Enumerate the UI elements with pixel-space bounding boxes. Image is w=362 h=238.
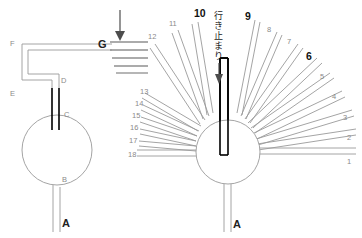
spoke-label-9: 9 — [245, 10, 251, 22]
diagram-canvas: A B C D E F G — [0, 0, 362, 238]
left-label-a: A — [62, 217, 70, 229]
spoke-label-1: 1 — [347, 157, 351, 166]
left-label-g: G — [98, 38, 107, 50]
spoke-label-2: 2 — [347, 133, 351, 142]
left-stem-a — [53, 185, 60, 232]
spoke-label-15: 15 — [132, 111, 140, 120]
left-panel-group: A B C D E F G — [10, 10, 148, 232]
spoke-label-12: 12 — [148, 32, 156, 41]
left-label-e: E — [10, 89, 15, 98]
left-label-f: F — [10, 39, 15, 48]
spoke-label-8: 8 — [267, 25, 271, 34]
technical-diagram-figure: A B C D E F G — [0, 0, 362, 238]
spoke-label-14: 14 — [135, 99, 143, 108]
spoke-label-13: 13 — [140, 87, 148, 96]
dead-end-annotation-group: 行 き 止 ま り — [214, 10, 223, 84]
spoke-label-3: 3 — [343, 113, 347, 122]
spoke-label-17: 17 — [129, 136, 137, 145]
left-label-b: B — [62, 175, 67, 184]
left-bulb — [22, 115, 92, 185]
dead-end-annotation-char-4: ま — [214, 41, 223, 51]
left-bent-tube-defg — [22, 44, 112, 88]
spoke-label-11: 11 — [169, 19, 177, 28]
left-label-d: D — [61, 76, 67, 85]
spoke-label-7: 7 — [287, 37, 291, 46]
dead-end-annotation-char-1: 行 — [214, 10, 223, 21]
dead-end-annotation-char-3: 止 — [214, 30, 223, 41]
spoke-label-4: 4 — [332, 92, 336, 101]
left-inflow-arrow-icon — [115, 10, 125, 41]
spoke-label-10: 10 — [194, 7, 206, 19]
dead-end-arrow-head — [215, 74, 223, 84]
spoke-label-16: 16 — [130, 123, 138, 132]
left-grate-lines — [110, 42, 148, 73]
dead-end-annotation-char-2: き — [214, 21, 223, 31]
dead-end-annotation-char-5: り — [214, 51, 223, 61]
left-label-c: C — [64, 110, 70, 119]
spoke-label-5: 5 — [320, 72, 324, 81]
right-label-a: A — [233, 218, 241, 230]
right-stem-a — [224, 184, 231, 232]
right-panel-group: 行 き 止 ま り 1 2 3 4 5 6 7 8 9 10 11 12 13 … — [128, 7, 356, 232]
spoke-label-6: 6 — [306, 50, 312, 62]
spoke-label-18: 18 — [128, 150, 136, 159]
